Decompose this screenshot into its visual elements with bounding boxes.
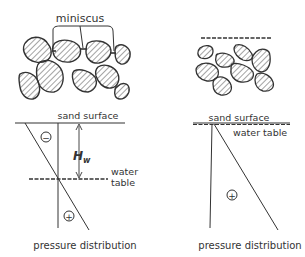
sand-grain: [115, 45, 130, 64]
sand-grain: [72, 70, 96, 92]
right-sand-grains: [196, 45, 273, 96]
sand-grain: [255, 73, 273, 91]
sand-grain: [213, 77, 231, 95]
height-symbol: H: [73, 149, 83, 163]
meniscus-label: miniscus: [56, 12, 105, 25]
depth-axis: [210, 124, 212, 228]
right-caption: pressure distribution: [198, 240, 301, 251]
sand-grain: [53, 40, 81, 62]
sand-grain: [198, 46, 213, 59]
water-label-line1: water: [111, 166, 138, 177]
height-label: Hw: [73, 149, 91, 165]
sand-surface-label: sand surface: [58, 110, 119, 121]
pressure-line: [214, 124, 278, 230]
sand-grain: [86, 41, 111, 63]
negative-sign: −: [42, 133, 50, 143]
right-positive-sign: +: [228, 191, 236, 201]
right-water-table-label: water table: [233, 127, 287, 138]
sand-grain: [24, 37, 52, 62]
water-label-line2: table: [111, 177, 135, 188]
sand-grain: [36, 60, 63, 92]
sand-grain: [234, 45, 252, 61]
left-caption: pressure distribution: [33, 240, 136, 251]
soil-pressure-diagram: miniscus sand surface Hw water table − +…: [0, 0, 305, 257]
sand-grain: [231, 63, 254, 82]
sand-grain: [96, 65, 119, 88]
right-sand-surface-label: sand surface: [209, 112, 270, 123]
height-subscript: w: [83, 156, 91, 165]
positive-sign: +: [65, 212, 73, 222]
right-pressure-diagram: [193, 123, 290, 230]
sand-grain: [115, 84, 130, 99]
sand-grain: [252, 49, 270, 72]
